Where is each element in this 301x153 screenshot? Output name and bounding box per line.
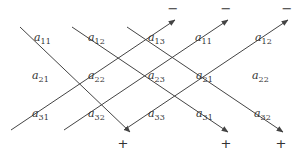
matrix-element-a11: a11 — [34, 31, 51, 46]
sarrus-diagram: +++−−− a11a12a13a11a12a21a22a23a21a22a31… — [0, 0, 301, 153]
matrix-element-a23: a23 — [148, 69, 165, 84]
matrix-element-a31: a31 — [196, 107, 213, 122]
matrix-element-a11: a11 — [195, 31, 212, 46]
matrix-element-a22: a22 — [88, 69, 105, 84]
matrix-element-a21: a21 — [32, 69, 49, 84]
matrix-element-a32: a32 — [254, 107, 271, 122]
plus-sign: + — [276, 136, 287, 151]
matrix-element-a12: a12 — [88, 31, 105, 46]
matrix-element-a33: a33 — [148, 107, 165, 122]
matrix-element-a21: a21 — [196, 69, 213, 84]
matrix-element-a13: a13 — [148, 31, 165, 46]
plus-sign: + — [221, 136, 232, 151]
matrix-element-a32: a32 — [88, 107, 105, 122]
matrix-elements: a11a12a13a11a12a21a22a23a21a22a31a32a33a… — [32, 31, 272, 122]
matrix-element-a12: a12 — [255, 31, 272, 46]
matrix-element-a22: a22 — [252, 69, 269, 84]
minus-sign: − — [221, 1, 232, 16]
plus-sign: + — [118, 136, 129, 151]
matrix-element-a31: a31 — [32, 107, 49, 122]
minus-sign: − — [282, 1, 293, 16]
minus-sign: − — [168, 1, 179, 16]
